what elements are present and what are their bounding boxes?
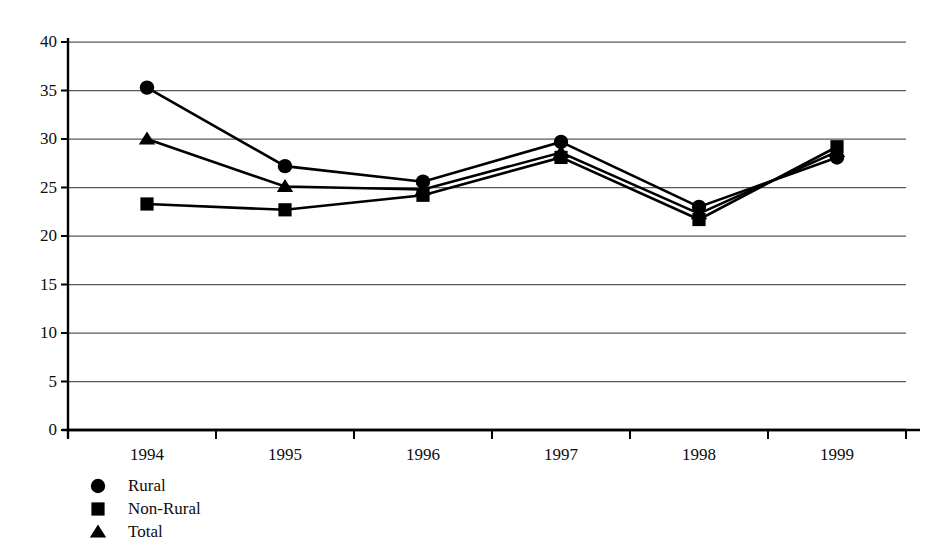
triangle-marker-icon (88, 522, 110, 542)
square-marker-icon-glyph (91, 502, 104, 515)
x-axis-tick-label: 1995 (245, 446, 325, 463)
circle-marker-icon (88, 476, 110, 496)
legend-item-non-rural[interactable]: Non-Rural (88, 497, 201, 520)
y-axis-tick-label: 15 (23, 276, 57, 293)
chart-plot-area (0, 0, 941, 546)
y-axis-tick-label: 10 (23, 324, 57, 341)
y-axis-tick-label: 35 (23, 82, 57, 99)
data-point-rural (140, 80, 154, 94)
x-axis-tick-label: 1994 (107, 446, 187, 463)
gridlines-group (61, 42, 906, 430)
y-axis-tick-label: 30 (23, 130, 57, 147)
chart-legend: RuralNon-RuralTotal (88, 474, 201, 543)
x-axis-ticks-group (68, 430, 906, 439)
x-axis-tick-label: 1999 (797, 446, 877, 463)
axis-lines-group (62, 38, 920, 438)
y-axis-tick-label: 5 (23, 373, 57, 390)
legend-label: Non-Rural (128, 499, 201, 519)
square-marker-icon (88, 499, 110, 519)
x-axis-tick-label: 1998 (659, 446, 739, 463)
data-point-rural (278, 159, 292, 173)
y-axis-tick-label: 40 (23, 33, 57, 50)
legend-item-rural[interactable]: Rural (88, 474, 201, 497)
x-axis-tick-label: 1997 (521, 446, 601, 463)
series-lines-group (147, 88, 837, 220)
triangle-marker-icon-glyph (90, 524, 106, 537)
y-axis-tick-label: 25 (23, 179, 57, 196)
y-axis-tick-label: 0 (23, 421, 57, 438)
circle-marker-icon-glyph (91, 478, 105, 492)
data-point-non-rural (140, 197, 153, 210)
legend-item-total[interactable]: Total (88, 520, 201, 543)
legend-label: Rural (128, 476, 166, 496)
series-line-non-rural (147, 147, 837, 220)
y-axis-tick-label: 20 (23, 227, 57, 244)
series-markers-group (139, 80, 845, 226)
x-axis-tick-label: 1996 (383, 446, 463, 463)
data-point-total (139, 131, 155, 144)
legend-label: Total (128, 522, 163, 542)
series-line-rural (147, 88, 837, 207)
data-point-non-rural (278, 203, 291, 216)
line-chart: 0510152025303540 19941995199619971998199… (0, 0, 941, 546)
